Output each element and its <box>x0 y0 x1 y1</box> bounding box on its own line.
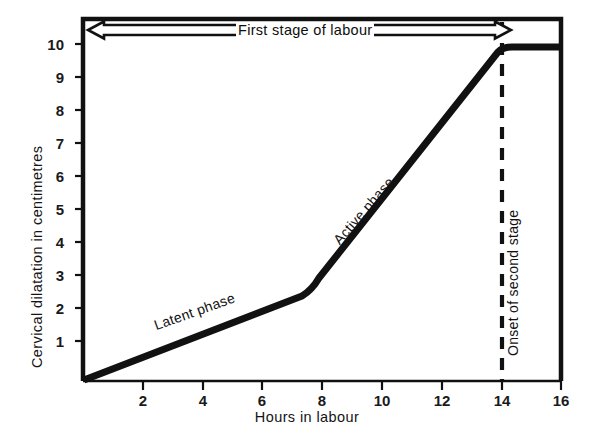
x-axis-title: Hours in labour <box>255 409 359 425</box>
x-tick-label-16: 16 <box>553 392 570 409</box>
cervical-dilatation-chart <box>0 0 615 434</box>
annotation-onset-of-second-stage: Onset of second stage <box>505 210 521 356</box>
chart-figure: 10 9 8 7 6 5 4 3 2 1 2 4 6 8 10 12 14 16… <box>0 0 615 434</box>
y-tick-label-9: 9 <box>38 69 64 86</box>
annotation-first-stage-of-labour: First stage of labour <box>236 22 374 38</box>
x-tick-label-4: 4 <box>199 392 207 409</box>
x-tick-label-12: 12 <box>434 392 451 409</box>
y-tick-label-10: 10 <box>38 36 64 53</box>
x-tick-label-8: 8 <box>318 392 326 409</box>
y-axis-title: Cervical dilatation in centimetres <box>29 146 45 368</box>
x-tick-label-6: 6 <box>258 392 266 409</box>
x-tick-label-14: 14 <box>494 392 511 409</box>
x-tick-label-10: 10 <box>374 392 391 409</box>
x-tick-label-2: 2 <box>139 392 147 409</box>
x-axis-ticks <box>143 381 561 390</box>
y-tick-label-8: 8 <box>38 102 64 119</box>
